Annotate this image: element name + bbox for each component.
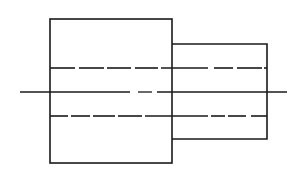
technical-drawing [0,0,296,182]
large-diameter-section [50,19,172,163]
